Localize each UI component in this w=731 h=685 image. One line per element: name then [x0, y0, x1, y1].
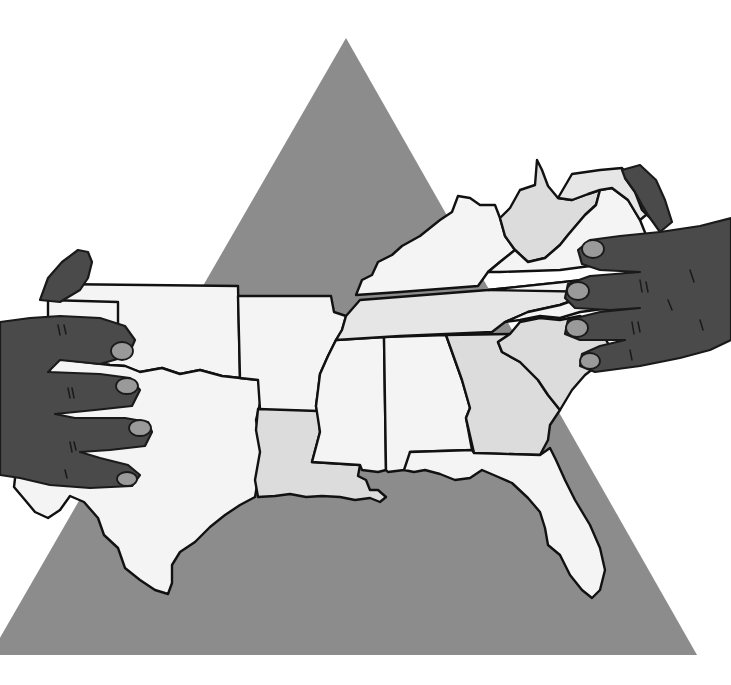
map-artwork	[0, 0, 731, 685]
